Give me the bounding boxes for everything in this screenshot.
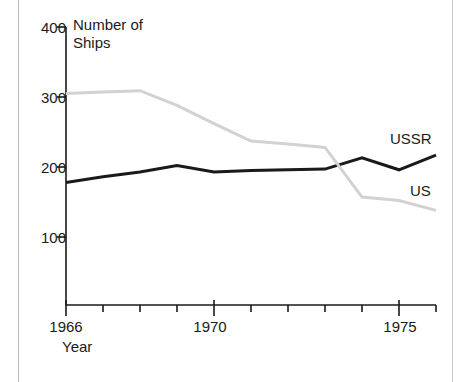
series-line-ussr: [66, 155, 436, 182]
chart-title: Number of Ships: [73, 16, 143, 52]
x-tick-label-1975: 1975: [370, 318, 430, 335]
y-tick-label-300: 300: [20, 89, 66, 106]
series-label-us: US: [410, 182, 431, 199]
series-line-us: [66, 91, 436, 211]
x-tick-label-1966: 1966: [36, 318, 96, 335]
y-tick-label-200: 200: [20, 159, 66, 176]
x-axis-caption-year: Year: [62, 338, 92, 355]
y-tick-label-100: 100: [20, 229, 66, 246]
x-tick-label-1970: 1970: [180, 318, 240, 335]
y-tick-label-400: 400: [20, 19, 66, 36]
data-series: [66, 91, 436, 211]
chart-figure: Number of Ships 400 300 200 100 1966 197…: [0, 0, 464, 382]
series-label-ussr: USSR: [390, 130, 432, 147]
